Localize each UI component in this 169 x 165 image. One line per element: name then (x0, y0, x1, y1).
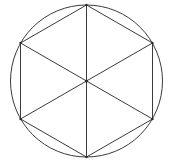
geometry-figure-canvas: Regular hexagon inscribed in a circle (0, 0, 169, 165)
vertex-dot-lower-left (19, 118, 21, 120)
vertex-dot-top (85, 4, 87, 6)
vertex-dot-lower-right (151, 118, 153, 120)
hexagon-in-circle-diagram: Regular hexagon inscribed in a circle (0, 0, 169, 165)
vertex-dot-upper-right (151, 42, 153, 44)
vertex-dot-upper-left (19, 42, 21, 44)
vertex-dot-bottom (85, 156, 87, 158)
center-point-dot (85, 79, 88, 82)
